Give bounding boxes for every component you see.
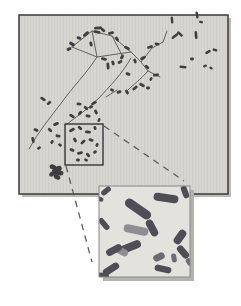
chromosome bbox=[85, 130, 91, 133]
chromosome bbox=[190, 58, 194, 61]
micrograph-svg bbox=[0, 0, 241, 306]
chromosome bbox=[76, 159, 80, 162]
micrograph-figure bbox=[0, 0, 241, 306]
chromosome bbox=[146, 87, 150, 90]
chromosome bbox=[76, 103, 81, 106]
